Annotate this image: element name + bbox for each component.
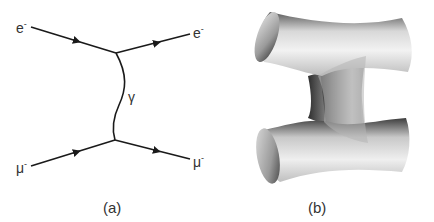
caption-a: (a)	[103, 200, 121, 215]
label-muon-out: μ-	[193, 154, 204, 169]
caption-b: (b)	[308, 200, 326, 215]
label-electron-out: e-	[193, 25, 204, 40]
photon-line	[113, 53, 125, 140]
muon-in-line	[31, 140, 115, 166]
muon-out-line	[115, 140, 190, 159]
panel-a-feynman-diagram: e- e- γ μ- μ- (a)	[0, 0, 220, 222]
label-muon-in: μ-	[16, 160, 27, 175]
panel-b-string-worldsheet: (b)	[220, 0, 434, 222]
feynman-diagram-lines	[0, 0, 220, 222]
label-photon: γ	[128, 90, 135, 104]
electron-out-line	[116, 34, 190, 53]
label-electron-in: e-	[16, 20, 27, 35]
electron-in-line	[31, 27, 116, 53]
worldsheet-surface	[220, 0, 434, 222]
